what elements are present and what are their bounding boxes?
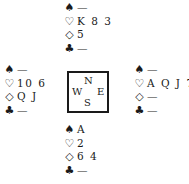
north-hand: ♠— ♡K 8 3 ◇5 ♣— [64,1,112,55]
heart-icon: ♡ [64,15,75,29]
compass-east: E [97,86,104,97]
north-clubs: ♣— [64,42,112,56]
west-hand: ♠— ♡10 6 ◇Q J ♣— [4,63,46,117]
club-icon: ♣ [4,104,15,118]
south-hand: ♠A ♡2 ◇6 4 ♣— [64,123,98,177]
north-hearts: ♡K 8 3 [64,15,112,29]
south-diamonds: ◇6 4 [64,150,98,164]
west-hearts: ♡10 6 [4,77,46,91]
spade-icon: ♠ [134,63,145,77]
west-diamonds: ◇Q J [4,90,46,104]
east-spades: ♠— [134,63,189,77]
diamond-icon: ◇ [64,150,75,164]
compass-south: S [84,97,91,108]
heart-icon: ♡ [134,77,145,91]
club-icon: ♣ [64,164,75,178]
south-hearts: ♡2 [64,137,98,151]
west-spades: ♠— [4,63,46,77]
club-icon: ♣ [134,104,145,118]
heart-icon: ♡ [64,137,75,151]
south-clubs: ♣— [64,164,98,178]
east-hearts: ♡A Q J 7 [134,77,189,91]
spade-icon: ♠ [4,63,15,77]
south-spades: ♠A [64,123,98,137]
spade-icon: ♠ [64,1,75,15]
compass-box: N W E S [67,71,109,113]
east-diamonds: ◇— [134,90,189,104]
east-clubs: ♣— [134,104,189,118]
diamond-icon: ◇ [64,28,75,42]
west-clubs: ♣— [4,104,46,118]
club-icon: ♣ [64,42,75,56]
diamond-icon: ◇ [134,90,145,104]
spade-icon: ♠ [64,123,75,137]
compass-west: W [72,86,82,97]
heart-icon: ♡ [4,77,15,91]
compass-north: N [84,75,93,86]
diamond-icon: ◇ [4,90,15,104]
north-spades: ♠— [64,1,112,15]
north-diamonds: ◇5 [64,28,112,42]
east-hand: ♠— ♡A Q J 7 ◇— ♣— [134,63,189,117]
